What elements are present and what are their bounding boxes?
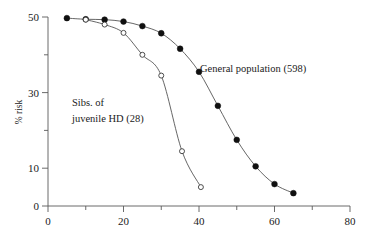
data-point: [102, 22, 107, 27]
y-tick-label-0: 0: [34, 200, 40, 212]
sibs-juvenile-hd-label-line1: Sibs. of: [72, 97, 105, 108]
x-tick-label-0: 0: [45, 215, 51, 227]
data-point: [158, 30, 164, 36]
y-tick-label-50: 50: [28, 11, 40, 23]
sibs-juvenile-hd-label-line2: juvenile HD (28): [71, 113, 144, 125]
axes-group: [48, 17, 350, 206]
data-point: [234, 137, 240, 143]
x-tick-label-20: 20: [118, 215, 130, 227]
data-point: [198, 185, 203, 190]
y-axis-title: % risk: [14, 99, 24, 124]
y-tick-label-30: 30: [28, 87, 40, 99]
data-point: [121, 19, 127, 25]
data-point: [139, 23, 145, 29]
y-tick-label-10: 10: [28, 162, 40, 174]
x-axis-tick-labels: 0 20 40 60 80: [45, 215, 356, 227]
data-point: [177, 46, 183, 52]
data-point: [180, 149, 185, 154]
data-point: [290, 190, 296, 196]
data-point: [140, 52, 145, 57]
x-axis-ticks: [48, 206, 350, 212]
data-point: [215, 103, 221, 109]
y-axis-ticks: [42, 17, 48, 206]
data-point: [253, 163, 259, 169]
annotations-layer: General population (598) Sibs. of juveni…: [71, 63, 307, 125]
y-axis-tick-labels: 50 30 10 0: [28, 11, 40, 212]
general-population-label: General population (598): [200, 63, 307, 75]
data-point: [64, 15, 70, 21]
x-tick-label-60: 60: [269, 215, 281, 227]
data-point: [83, 17, 88, 22]
risk-curve-figure: 50 30 10 0 0 20 40 60 80 % risk: [0, 0, 365, 238]
x-tick-label-40: 40: [194, 215, 206, 227]
data-point: [159, 73, 164, 78]
data-point: [272, 181, 278, 187]
chart-canvas: 50 30 10 0 0 20 40 60 80 % risk: [0, 0, 365, 238]
x-tick-label-80: 80: [345, 215, 357, 227]
data-point: [121, 30, 126, 35]
